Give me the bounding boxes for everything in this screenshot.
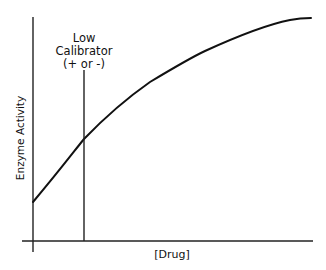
calibrator-label-line3: (+ or -) <box>63 57 105 71</box>
chart: Low Calibrator (+ or -) Enzyme Activity … <box>0 0 326 270</box>
x-axis-label: [Drug] <box>154 248 190 261</box>
calibrator-label-line2: Calibrator <box>56 44 113 58</box>
y-axis-label: Enzyme Activity <box>14 96 26 180</box>
calibrator-label-line1: Low <box>73 31 96 45</box>
